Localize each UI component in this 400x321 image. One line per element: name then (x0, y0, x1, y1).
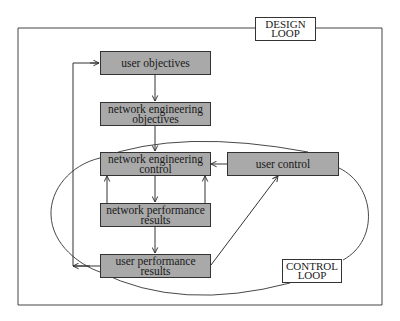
control-loop-label: CONTROL LOOP (282, 259, 342, 283)
node-network-performance-results: network performance results (100, 203, 211, 227)
arrow-upr-to-uc (211, 176, 278, 265)
node-network-engineering-objectives: network engineering objectives (100, 102, 211, 126)
node-user-control: user control (227, 152, 339, 176)
control-loop-ellipse-right (339, 168, 368, 260)
design-loop-label: DESIGN LOOP (255, 17, 316, 41)
node-user-performance-results: user performance results (100, 254, 211, 278)
node-network-engineering-control: network engineering control (100, 152, 211, 176)
control-loop-ellipse (51, 158, 100, 272)
arrow-design-loop-back (73, 63, 100, 266)
node-user-objectives: user objectives (100, 51, 211, 75)
